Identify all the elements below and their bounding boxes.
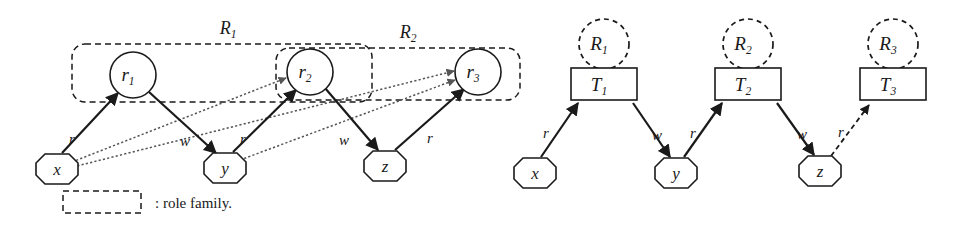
role-node-r1[interactable]: r1 bbox=[110, 52, 156, 98]
edge-label-y-T2: r bbox=[690, 125, 696, 141]
object-node-z-right[interactable]: z bbox=[799, 156, 841, 186]
family-circle-label-R2: R2 bbox=[733, 33, 752, 56]
right-diagram: R1 R2 R3 r w r w r bbox=[514, 19, 926, 188]
type-box-T2[interactable]: T2 bbox=[715, 68, 781, 100]
object-node-y-left[interactable]: y bbox=[204, 153, 246, 183]
left-diagram: R1 R2 r w r w r bbox=[36, 18, 520, 184]
object-node-label-z-left: z bbox=[381, 157, 389, 176]
dashed-edge-z-to-T3-right bbox=[831, 105, 869, 156]
object-node-x-left[interactable]: x bbox=[36, 154, 78, 184]
legend: : role family. bbox=[63, 191, 232, 213]
right-edge-labels: r w r w r bbox=[543, 124, 844, 143]
dotted-edge-y-to-r3 bbox=[240, 80, 455, 160]
family-circle-label-R1: R1 bbox=[589, 33, 607, 56]
left-solid-edges bbox=[62, 88, 464, 153]
edge-label-r2-z: w bbox=[339, 132, 349, 148]
object-node-label-x-right: x bbox=[530, 164, 539, 183]
role-family-label-R1: R1 bbox=[219, 18, 237, 40]
object-node-label-x-left: x bbox=[52, 160, 61, 179]
edge-label-x-r1: r bbox=[69, 131, 75, 147]
solid-edge-T2-to-z-right bbox=[777, 103, 814, 155]
role-family-label-R2: R2 bbox=[399, 22, 417, 44]
type-box-T3[interactable]: T3 bbox=[860, 68, 926, 100]
edge-label-z-T3: r bbox=[838, 124, 844, 140]
family-circle-R3[interactable]: R3 bbox=[868, 19, 918, 69]
legend-swatch-role-family bbox=[63, 191, 141, 213]
object-node-label-y-left: y bbox=[219, 159, 229, 178]
object-node-z-left[interactable]: z bbox=[364, 151, 406, 181]
legend-label-role-family: : role family. bbox=[155, 195, 232, 211]
edge-label-z-r3: r bbox=[427, 130, 433, 146]
edge-label-y-r2: r bbox=[240, 131, 246, 147]
diagram-canvas: R1 R2 r w r w r bbox=[0, 0, 972, 233]
right-edges bbox=[541, 103, 869, 157]
object-node-label-y-right: y bbox=[670, 164, 680, 183]
role-node-r2[interactable]: r2 bbox=[287, 49, 333, 95]
family-circle-R1[interactable]: R1 bbox=[579, 19, 629, 69]
edge-label-x-T1: r bbox=[543, 125, 549, 141]
object-node-y-right[interactable]: y bbox=[655, 158, 697, 188]
figure-root: R1 R2 r w r w r bbox=[0, 0, 972, 233]
role-node-r3[interactable]: r3 bbox=[455, 49, 501, 95]
edge-label-T2-z: w bbox=[797, 126, 807, 142]
edge-label-r1-y: w bbox=[180, 133, 190, 149]
object-node-x-right[interactable]: x bbox=[514, 158, 556, 188]
family-circle-label-R3: R3 bbox=[878, 33, 897, 56]
type-box-T1[interactable]: T1 bbox=[571, 68, 637, 100]
object-node-label-z-right: z bbox=[816, 162, 824, 181]
edge-label-T1-y: w bbox=[652, 127, 662, 143]
family-circle-R2[interactable]: R2 bbox=[723, 19, 773, 69]
